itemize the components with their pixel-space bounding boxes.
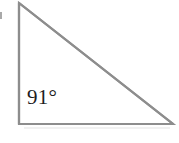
left-edge-scan-artifact (0, 12, 2, 19)
angle-measure-label: 91° (27, 85, 57, 109)
triangle-diagram (0, 0, 179, 143)
geometry-figure: 91° (0, 0, 179, 143)
baseline-scan-smudge (24, 127, 170, 129)
